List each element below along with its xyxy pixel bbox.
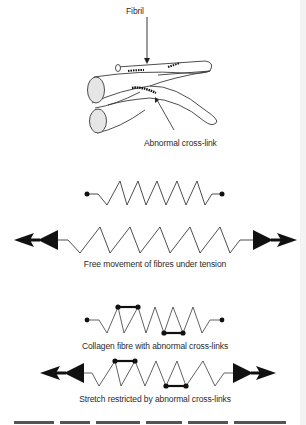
caption-free-movement: Free movement of fibres under tension	[84, 259, 226, 269]
crosslinked-fibre-zigzag	[85, 304, 225, 335]
relaxed-fibre-zigzag	[85, 181, 225, 205]
right-restricted-arrow-icon	[233, 363, 276, 383]
tension-fibre-zigzag	[58, 227, 253, 253]
left-restricted-arrow-icon	[40, 363, 84, 383]
caption-stretch-restricted: Stretch restricted by abnormal cross-lin…	[79, 394, 231, 404]
caption-collagen-crosslinks: Collagen fibre with abnormal cross-links	[82, 341, 228, 351]
diagram-canvas	[0, 0, 306, 425]
fibril-illustration	[88, 17, 217, 133]
right-tension-arrow-icon	[253, 230, 297, 250]
crosslink-label: Abnormal cross-link	[144, 138, 217, 148]
restricted-fibre-zigzag	[84, 358, 233, 388]
footer-caption-cut	[14, 421, 286, 424]
fibril-label: Fibril	[126, 6, 144, 16]
left-tension-arrow-icon	[14, 230, 58, 250]
